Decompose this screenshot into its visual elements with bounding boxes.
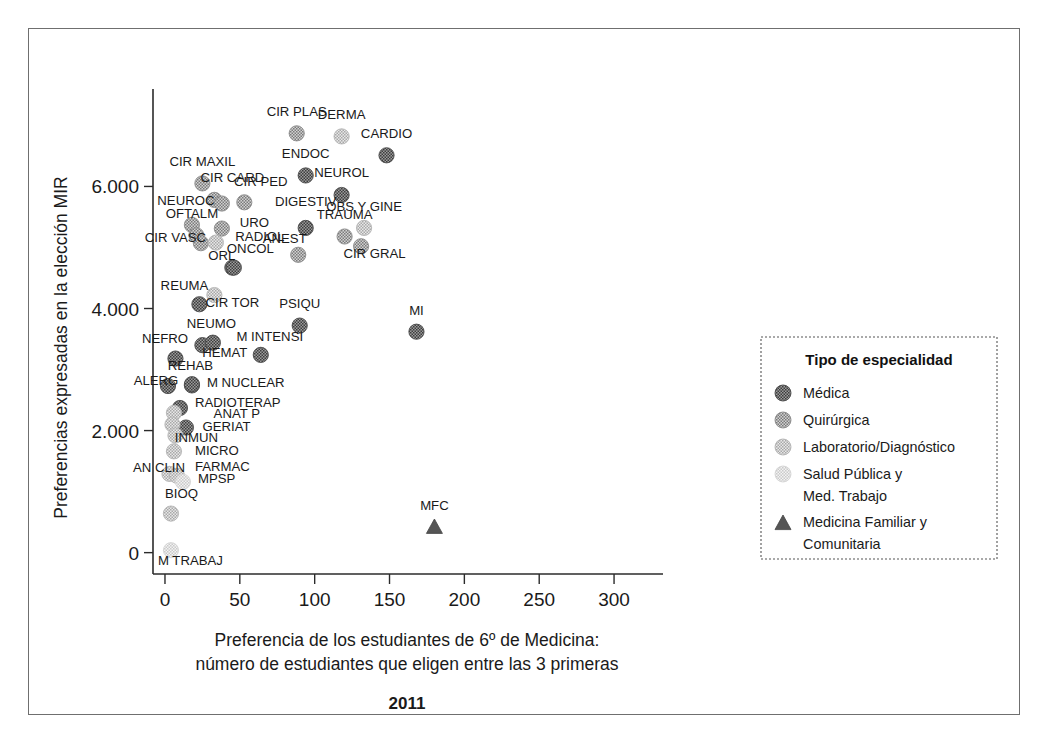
x-tick-label: 50 — [229, 589, 250, 610]
data-point-label: OBS Y GINE — [326, 199, 402, 214]
legend-label: Medicina Familiar y — [803, 514, 928, 530]
data-point-marker — [166, 444, 181, 459]
legend-label: Quirúrgica — [803, 412, 869, 428]
legend-label: Comunitaria — [803, 536, 881, 552]
data-point-label: CIR VASC — [145, 230, 207, 245]
y-tick-label: 2.000 — [91, 421, 139, 442]
data-point-marker — [184, 377, 199, 392]
y-axis-title: Preferencias expresadas en la elección M… — [51, 176, 71, 518]
y-tick-label: 4.000 — [91, 299, 139, 320]
data-point-label: CIR MAXIL — [169, 154, 235, 169]
data-point-label: M INTENSI — [236, 329, 303, 344]
data-point-marker — [289, 126, 304, 141]
data-point-label: CIR PED — [234, 174, 288, 189]
data-point-marker — [379, 148, 394, 163]
y-tick-label: 0 — [128, 543, 139, 564]
data-point-label: MFC — [420, 498, 449, 513]
legend-marker — [775, 439, 791, 455]
data-point-label: PSIQU — [279, 296, 320, 311]
data-point-marker — [409, 324, 424, 339]
data-point-label: REHAB — [168, 358, 214, 373]
x-axis-title-line2: número de estudiantes que eligen entre l… — [195, 654, 618, 674]
x-tick-label: 0 — [160, 589, 171, 610]
data-point-label: REUMA — [161, 278, 209, 293]
legend-marker — [775, 412, 791, 428]
legend-marker — [775, 385, 791, 401]
data-point-marker — [291, 247, 306, 262]
x-tick-label: 300 — [598, 589, 630, 610]
x-tick-label: 100 — [299, 589, 331, 610]
data-point-label: MPSP — [198, 471, 236, 486]
legend-title: Tipo de especialidad — [805, 351, 952, 368]
chart-titles: Preferencias expresadas en la elección M… — [51, 176, 619, 713]
data-point-marker — [426, 519, 442, 533]
data-point-label: BIOQ — [165, 486, 198, 501]
data-point-label: ENDOC — [282, 146, 330, 161]
data-point-label: NEFRO — [142, 331, 188, 346]
x-axis-title-line1: Preferencia de los estudiantes de 6º de … — [215, 630, 600, 650]
legend-marker — [775, 466, 791, 482]
data-point-label: DERMA — [318, 107, 366, 122]
data-point-marker — [334, 129, 349, 144]
figure-frame: 02.0004.0006.000050100150200250300 CIR P… — [28, 28, 1020, 715]
data-point-label: ALERG — [134, 373, 179, 388]
data-point-label: CIR TOR — [205, 295, 259, 310]
data-point-label: CARDIO — [361, 126, 412, 141]
data-point-marker — [214, 221, 229, 236]
data-point-label: MICRO — [195, 443, 239, 458]
legend-label: Salud Pública y — [803, 466, 903, 482]
data-point-label: MI — [409, 303, 424, 318]
data-point-label: M TRABAJ — [158, 553, 223, 568]
x-tick-label: 250 — [523, 589, 555, 610]
chart-title: 2011 — [389, 694, 426, 713]
data-point-marker — [298, 168, 313, 183]
data-point-marker — [253, 347, 268, 362]
data-point-label: NEUMO — [187, 316, 236, 331]
y-tick-label: 6.000 — [91, 176, 139, 197]
data-point-label: M NUCLEAR — [207, 375, 285, 390]
data-point-label: ONCOL — [227, 241, 274, 256]
data-point-label: OFTALM — [166, 206, 219, 221]
x-tick-label: 150 — [374, 589, 406, 610]
data-point-label: NEUROL — [314, 165, 369, 180]
legend-label: Médica — [803, 385, 849, 401]
x-tick-label: 200 — [449, 589, 481, 610]
data-point-marker — [237, 195, 252, 210]
scatter-chart: 02.0004.0006.000050100150200250300 CIR P… — [29, 29, 1021, 716]
data-point-marker — [163, 506, 178, 521]
data-point-label: AN CLIN — [133, 460, 185, 475]
chart-legend: Tipo de especialidadMédicaQuirúrgicaLabo… — [761, 337, 997, 559]
data-point-label: CIR GRAL — [343, 246, 405, 261]
data-point-marker — [356, 220, 371, 235]
plot-area: 02.0004.0006.000050100150200250300 CIR P… — [29, 29, 1021, 716]
data-point-marker — [337, 229, 352, 244]
legend-label: Laboratorio/Diagnóstico — [803, 439, 955, 455]
legend-label: Med. Trabajo — [803, 488, 887, 504]
point-labels: CIR PLASDERMACARDIOENDOCNEUROLCIR MAXILC… — [133, 104, 449, 569]
